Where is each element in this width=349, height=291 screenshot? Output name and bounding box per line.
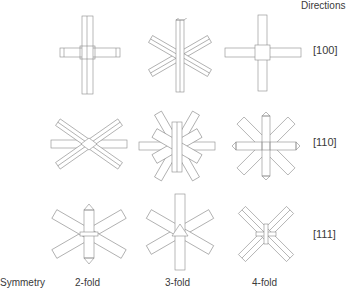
x-bars-icon [228,202,304,266]
plus-bars-icon [222,12,304,94]
column-label-2fold: 2-fold [75,277,100,288]
direction-label-100: [100] [313,44,337,56]
directions-heading: Directions [301,0,345,11]
direction-label-110: [110] [313,136,337,148]
six-arm-star-icon [48,108,130,180]
column-label-3fold: 3-fold [165,277,190,288]
eight-arm-star-icon [228,108,304,184]
symmetry-label: Symmetry [0,277,45,288]
six-arm-star-icon [140,18,220,96]
six-arm-star-icon [140,192,220,272]
x-bars-icon [48,202,130,266]
cross-bars-icon [50,12,130,96]
twelve-arm-star-icon [137,106,217,188]
direction-label-111: [111] [313,228,336,240]
column-label-4fold: 4-fold [252,277,277,288]
